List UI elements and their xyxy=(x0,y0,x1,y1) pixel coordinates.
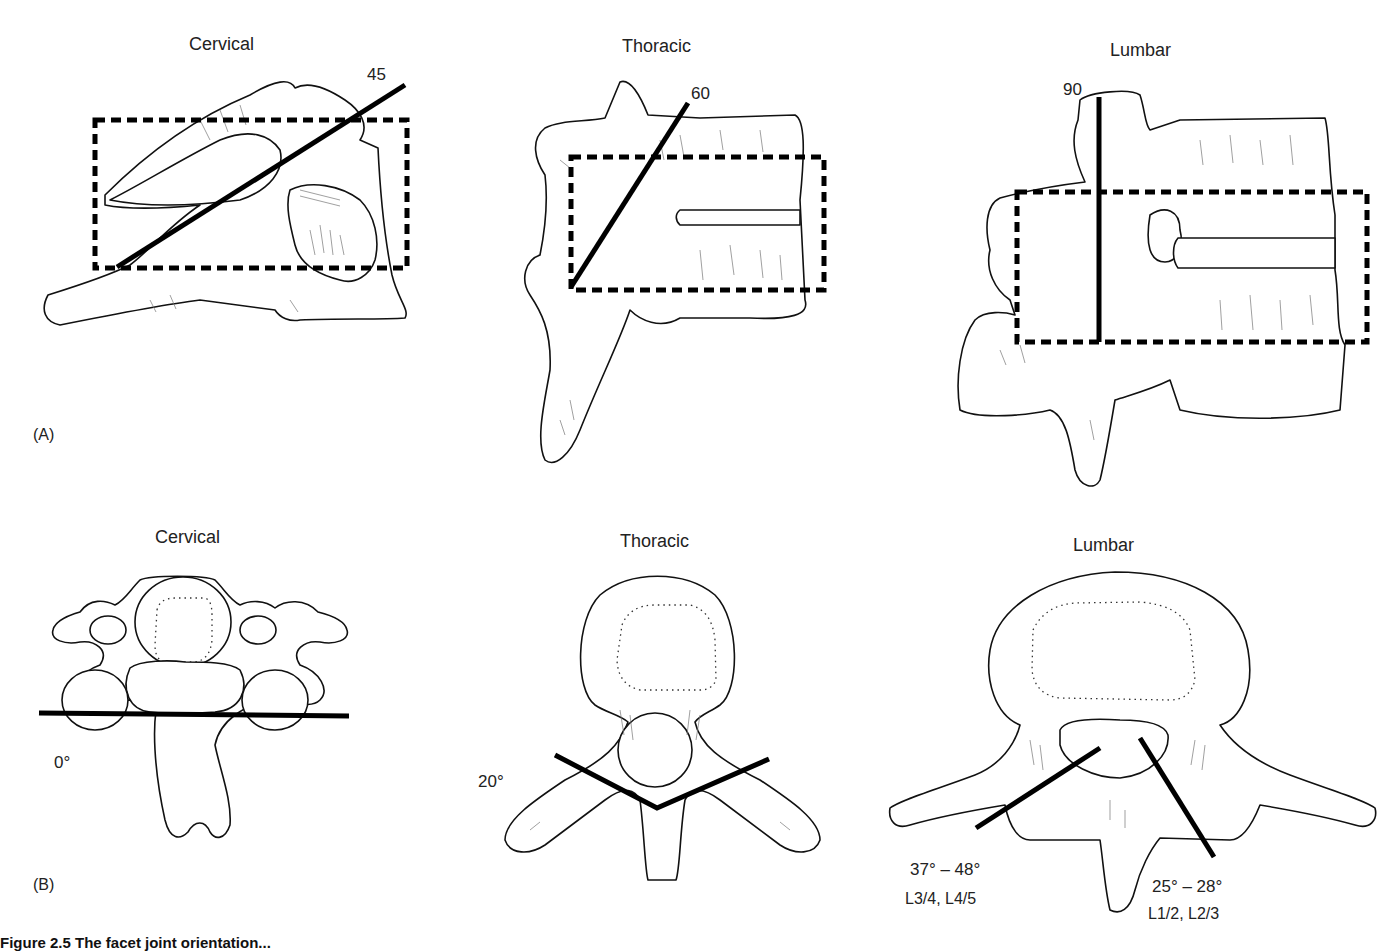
panel-b-lumbar-levels-left: L3/4, L4/5 xyxy=(905,890,976,908)
panel-a-lumbar-angle: 90 xyxy=(1063,80,1082,100)
panel-b-lumbar-angle-left: 37° – 48° xyxy=(910,860,980,880)
panel-a-cervical-angle: 45 xyxy=(367,65,386,85)
panel-b-thoracic-angle: 20° xyxy=(478,772,504,792)
panel-b-lumbar-title: Lumbar xyxy=(1073,535,1134,556)
panel-b-cervical-angle: 0° xyxy=(54,753,70,773)
cervical-axial-illustration xyxy=(39,576,349,837)
figure-caption: Figure 2.5 The facet joint orientation..… xyxy=(0,934,271,951)
panel-a-thoracic-title: Thoracic xyxy=(622,36,691,57)
panel-b-cervical-title: Cervical xyxy=(155,527,220,548)
panel-b-label: (B) xyxy=(33,876,54,894)
cervical-lateral-illustration xyxy=(44,82,407,325)
panel-b-thoracic-title: Thoracic xyxy=(620,531,689,552)
panel-b-lumbar-levels-right: L1/2, L2/3 xyxy=(1148,905,1219,923)
panel-a-thoracic-angle: 60 xyxy=(691,84,710,104)
thoracic-axial-illustration xyxy=(505,576,820,880)
panel-a-lumbar-title: Lumbar xyxy=(1110,40,1171,61)
thoracic-lateral-illustration xyxy=(525,81,824,462)
lumbar-lateral-illustration xyxy=(958,91,1367,486)
panel-a-label: (A) xyxy=(33,426,54,444)
panel-b-lumbar-angle-right: 25° – 28° xyxy=(1152,877,1222,897)
panel-a-cervical-title: Cervical xyxy=(189,34,254,55)
